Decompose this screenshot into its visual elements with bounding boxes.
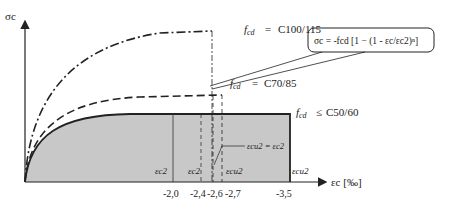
x-axis-label: εc [‰]: [331, 176, 362, 188]
c70-label: C70/85: [264, 77, 297, 89]
ec2-label-2: εc2: [188, 166, 201, 176]
y-axis-label: σc: [5, 10, 16, 22]
c100-op: =: [265, 23, 271, 35]
c50-label: C50/60: [326, 106, 359, 118]
c70-op: =: [252, 77, 258, 89]
fcd-label-c100: fcd: [244, 23, 256, 37]
fcd-label-c70: fcd: [230, 77, 242, 91]
stress-strain-diagram: σc εc [‰] fcd = C100/115 fcd = C70/85 fc…: [0, 0, 456, 214]
annotation-equal: εcu2 = εc2: [247, 141, 285, 151]
fcd-label-c50: fcd: [296, 106, 308, 120]
ecu2-label-2: εcu2: [292, 166, 309, 176]
tick-2-6: -2,6: [207, 188, 223, 199]
tick-2-4: -2,4: [190, 188, 206, 199]
c100-label: C100/115: [278, 23, 321, 35]
c50-op: ≤: [316, 106, 322, 118]
tick-2-0: -2,0: [163, 188, 179, 199]
tick-2-7: -2,7: [225, 188, 241, 199]
ecu2-label-1: εcu2: [226, 166, 243, 176]
tick-3-5: -3,5: [276, 188, 292, 199]
formula-text: σc = -fcd [1 − (1 - εc/εc2)ⁿ]: [314, 36, 418, 47]
ec2-label-1: εc2: [155, 166, 168, 176]
